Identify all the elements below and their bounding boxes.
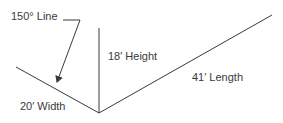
leader-arrow: [57, 20, 80, 82]
length-line: [99, 15, 272, 113]
dimension-diagram: 150° Line 18′ Height 41′ Length 20′ Widt…: [0, 0, 283, 123]
length-label: 41′ Length: [192, 71, 243, 83]
height-label: 18′ Height: [108, 50, 157, 62]
angle-line-label: 150° Line: [11, 10, 58, 22]
width-label: 20′ Width: [20, 100, 65, 112]
